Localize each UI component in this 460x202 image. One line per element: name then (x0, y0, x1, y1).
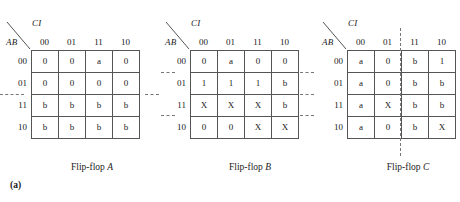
kmap-cell: a (348, 51, 375, 73)
kmap-row: 0 0 0 0 (32, 73, 140, 95)
kmap-cell: b (86, 117, 113, 139)
kmap-cell: 0 (32, 73, 59, 95)
caption-a-text: Flip-flop (71, 162, 107, 172)
kmap-cell: 0 (59, 73, 86, 95)
kmap-cell: X (272, 117, 299, 139)
caption-flip-flop-a: Flip-flop A (32, 162, 152, 172)
kmap-cell: X (191, 95, 218, 117)
kmap-cell: b (272, 95, 299, 117)
kmap-b-row-header: 11 (165, 94, 189, 116)
kmap-cell: 0 (113, 51, 140, 73)
kmap-c-grid: a 0 b 1 a 0 b b a X b b a 0 b X (347, 50, 456, 139)
kmap-a-col-header: 01 (58, 37, 85, 48)
kmap-b-column-headers: 00 01 11 10 (190, 37, 298, 48)
kmap-b-grid: 0 a 0 0 1 1 1 b X X X b 0 0 X X (190, 50, 299, 139)
kmap-cell: b (113, 117, 140, 139)
kmap-cell: b (32, 95, 59, 117)
kmap-c-group-dash-1 (300, 72, 314, 73)
kmap-cell: X (245, 117, 272, 139)
kmap-c-group-dash-3 (300, 115, 314, 116)
kmap-cell: b (113, 95, 140, 117)
kmap-a-row-header: 10 (6, 116, 30, 138)
kmap-b-group-dash-upper (161, 72, 175, 73)
kmap-row: X X X b (191, 95, 299, 117)
kmap-b-column-variable-label: CI (191, 18, 200, 28)
kmap-a-col-header: 10 (112, 37, 139, 48)
kmap-cell: 1 (245, 73, 272, 95)
kmap-b-row-header: 10 (165, 116, 189, 138)
kmap-a-row-header: 01 (6, 72, 30, 94)
kmap-cell: 0 (218, 117, 245, 139)
kmap-a-row-header: 00 (6, 50, 30, 72)
kmap-b-col-header: 10 (271, 37, 298, 48)
kmap-c-row-headers: 00 01 11 10 (322, 50, 346, 138)
kmap-cell: b (429, 73, 456, 95)
kmap-cell: a (348, 95, 375, 117)
kmap-b-group-dash-lower (161, 115, 175, 116)
kmap-a-col-header: 11 (85, 37, 112, 48)
kmap-cell: 0 (245, 51, 272, 73)
kmap-a-row-variable-label: AB (6, 37, 18, 47)
kmap-cell: b (402, 95, 429, 117)
kmap-cell: 1 (218, 73, 245, 95)
caption-b-text: Flip-flop (229, 162, 265, 172)
caption-b-variable: B (265, 162, 271, 172)
kmap-cell: a (86, 51, 113, 73)
kmap-c-group-dash-2 (300, 94, 314, 95)
kmap-cell: a (218, 51, 245, 73)
kmap-cell: 0 (375, 73, 402, 95)
kmap-cell: b (272, 73, 299, 95)
caption-c-variable: C (423, 162, 429, 172)
kmap-row: a 0 b X (348, 117, 456, 139)
kmap-cell: b (402, 117, 429, 139)
kmap-c-col-header: 00 (347, 37, 374, 48)
kmap-c-row-header: 01 (322, 72, 346, 94)
kmap-a-row-header: 11 (6, 94, 30, 116)
kmap-cell: 0 (59, 51, 86, 73)
kmap-row: b b b b (32, 117, 140, 139)
kmap-a-group-dash-right (145, 94, 159, 95)
caption-flip-flop-c: Flip-flop C (348, 162, 460, 172)
kmap-b-row-header: 00 (165, 50, 189, 72)
caption-a-variable: A (107, 162, 113, 172)
kmap-c-col-header: 10 (428, 37, 455, 48)
kmap-cell: 0 (272, 51, 299, 73)
kmap-cell: 0 (32, 51, 59, 73)
kmap-cell: b (86, 95, 113, 117)
kmap-c-col-header: 11 (401, 37, 428, 48)
kmap-cell: a (348, 73, 375, 95)
kmap-a-column-headers: 00 01 11 10 (31, 37, 139, 48)
kmap-row: 0 a 0 0 (191, 51, 299, 73)
kmap-row: 0 0 X X (191, 117, 299, 139)
kmap-cell: b (59, 95, 86, 117)
kmap-c-row-header: 00 (322, 50, 346, 72)
kmap-cell: b (429, 95, 456, 117)
kmap-c-column-headers: 00 01 11 10 (347, 37, 455, 48)
kmap-cell: X (218, 95, 245, 117)
kmap-a-grid: 0 0 a 0 0 0 0 0 b b b b b b b b (31, 50, 140, 139)
kmap-row: b b b b (32, 95, 140, 117)
kmap-cell: 0 (113, 73, 140, 95)
kmap-a-column-variable-label: CI (32, 18, 41, 28)
kmap-a-group-dash-left (0, 94, 24, 95)
kmap-c-row-variable-label: AB (322, 37, 334, 47)
kmap-row: 1 1 1 b (191, 73, 299, 95)
kmap-row: a 0 b b (348, 73, 456, 95)
kmap-cell: 0 (375, 51, 402, 73)
kmap-b-col-header: 00 (190, 37, 217, 48)
kmap-b-col-header: 01 (217, 37, 244, 48)
kmap-cell: b (32, 117, 59, 139)
kmap-cell: 0 (191, 51, 218, 73)
kmap-c-col-header: 01 (374, 37, 401, 48)
kmap-cell: 0 (191, 117, 218, 139)
kmap-cell: 0 (375, 117, 402, 139)
kmap-c-row-header: 11 (322, 94, 346, 116)
kmap-cell: 0 (86, 73, 113, 95)
kmap-cell: X (245, 95, 272, 117)
kmap-a-col-header: 00 (31, 37, 58, 48)
kmap-cell: b (402, 51, 429, 73)
kmap-b-col-header: 11 (244, 37, 271, 48)
figure-part-label: (a) (10, 180, 21, 190)
kmap-cell: 1 (429, 51, 456, 73)
